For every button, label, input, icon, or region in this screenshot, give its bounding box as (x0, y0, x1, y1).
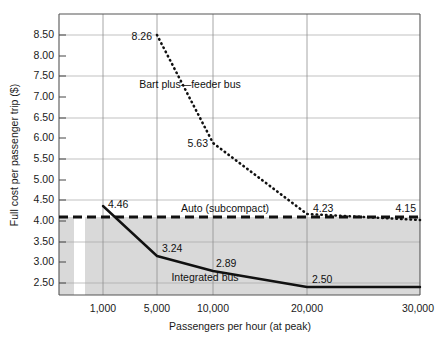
data-label-bart-5000: 8.26 (132, 30, 153, 42)
x-tick-label: 30,000 (402, 302, 434, 314)
chart-svg: 8.50 8.00 7.50 7.00 6.50 6.00 5.50 5.00 … (0, 0, 446, 346)
y-tick-label: 3.50 (34, 235, 55, 247)
y-tick-label: 8.50 (34, 28, 55, 40)
data-label-bart-30000: 4.15 (396, 202, 417, 214)
series-annotation-integrated-bus: Integrated bus (171, 271, 238, 283)
y-tick-label: 3.00 (34, 255, 55, 267)
data-label-bus-20000: 2.50 (312, 273, 333, 285)
x-tick-label: 5,000 (144, 302, 170, 314)
y-tick-label: 4.00 (34, 214, 55, 226)
x-tick-label: 1,000 (90, 302, 116, 314)
y-axis-title: Full cost per passenger trip ($) (8, 84, 20, 226)
x-tick-label: 10,000 (197, 302, 229, 314)
y-tick-label: 5.00 (34, 173, 55, 185)
data-label-bus-10000: 2.89 (216, 257, 237, 269)
data-label-bart-20000: 4.23 (313, 202, 334, 214)
y-tick-label: 8.00 (34, 49, 55, 61)
y-tick-label: 4.50 (34, 193, 55, 205)
y-tick-label: 7.00 (34, 90, 55, 102)
y-tick-label: 6.00 (34, 131, 55, 143)
y-tick-label: 2.50 (34, 276, 55, 288)
series-annotation-auto: Auto (subcompact) (181, 202, 269, 214)
series-annotation-bart: Bart plus—feeder bus (139, 78, 241, 90)
data-label-bus-1000: 4.46 (108, 198, 129, 210)
y-tick-label: 7.50 (34, 69, 55, 81)
data-label-bus-5000: 3.24 (162, 242, 183, 254)
x-axis-title: Passengers per hour (at peak) (169, 320, 311, 332)
y-tick-label: 6.50 (34, 111, 55, 123)
y-tick-label: 5.50 (34, 152, 55, 164)
data-label-bart-10000: 5.63 (188, 137, 209, 149)
x-tick-label: 20,000 (291, 302, 323, 314)
chart-figure: 8.50 8.00 7.50 7.00 6.50 6.00 5.50 5.00 … (0, 0, 446, 346)
